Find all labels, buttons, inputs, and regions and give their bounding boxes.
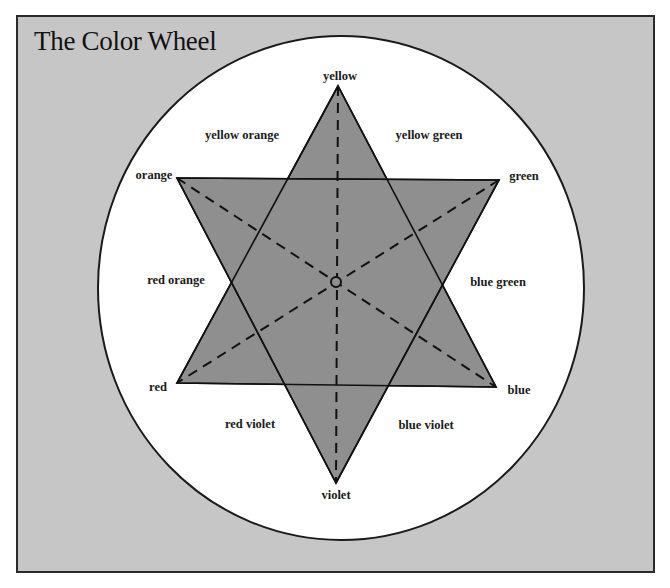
label-yellow-orange: yellow orange	[205, 128, 279, 143]
label-yellow: yellow	[323, 69, 357, 84]
label-blue-violet: blue violet	[398, 418, 453, 433]
label-yellow-green: yellow green	[396, 128, 463, 143]
label-blue: blue	[508, 383, 531, 398]
label-red: red	[149, 380, 167, 395]
label-violet: violet	[321, 488, 350, 503]
label-orange: orange	[136, 168, 173, 183]
label-red-orange: red orange	[147, 273, 205, 288]
label-red-violet: red violet	[225, 417, 275, 432]
label-blue-green: blue green	[470, 275, 526, 290]
label-green: green	[509, 169, 539, 184]
